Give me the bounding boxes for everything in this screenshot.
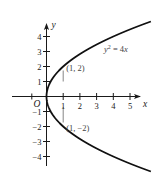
x-tick-label: 5 [128, 101, 132, 111]
x-tick-label: 4 [111, 101, 116, 111]
point-annotation: (1, 2) [66, 63, 85, 73]
equation-rhs-var: x [123, 44, 128, 54]
x-tick-label: 2 [78, 101, 82, 111]
y-tick-label: 1 [37, 77, 41, 87]
point-annotation: (1, −2) [66, 123, 89, 133]
y-tick-label: 3 [37, 47, 41, 57]
origin-label: O [34, 99, 41, 109]
parabola-figure: 123454321−1−2−3−4xyO(1, 2)(1, −2)y2 = 4x [0, 0, 154, 185]
y-tick-label: −3 [32, 137, 41, 147]
y-axis-label: y [51, 20, 57, 30]
y-tick-label: −2 [32, 122, 41, 132]
labels: 123454321−1−2−3−4xyO(1, 2)(1, −2)y2 = 4x [32, 20, 148, 162]
y-tick-label: −4 [32, 152, 42, 162]
x-tick-label: 3 [94, 101, 98, 111]
x-tick-label: 1 [61, 101, 65, 111]
equation-label: y2 = 4x [103, 44, 128, 55]
equation-rhs: = 4 [111, 44, 125, 54]
x-axis-label: x [142, 99, 148, 109]
plot-area: 123454321−1−2−3−4xyO(1, 2)(1, −2)y2 = 4x [0, 0, 154, 185]
y-tick-label: 4 [37, 32, 42, 42]
y-tick-label: 2 [37, 62, 41, 72]
